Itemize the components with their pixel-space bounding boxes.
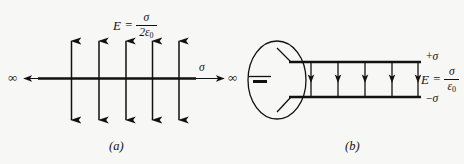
infinity-label-right: ∞ [228,71,237,84]
panel-a-equation-variable: E [113,19,121,32]
panel-a-field-equation: E = σ 2ε0 [113,12,157,38]
panel-a-equation-equals: = [125,19,132,32]
panel-b-equation-numerator: σ [446,66,458,79]
panel-b-field-arrows [308,62,422,97]
panel-b-equation-denominator: ε0 [444,80,459,93]
panel-a-denominator-subscript: 0 [150,31,154,40]
top-plate-charge-label: +σ [426,51,438,63]
panel-a-caption: (a) [109,140,124,153]
lead-bottom-wire [277,97,291,112]
panel-a-denominator-symbol: ε [145,26,150,38]
infinity-label-left: ∞ [8,71,17,84]
lead-top-wire [277,48,291,62]
physics-figure: ∞ ∞ σ E = σ 2ε0 (a) +σ −σ E = σ ε0 (b) [0,0,464,164]
sheet-charge-density-label: σ [199,62,205,74]
panel-a-equation-denominator: 2ε0 [136,26,156,39]
bottom-plate-sigma: σ [433,92,439,104]
panel-a-group [24,41,224,120]
panel-b-equation-fraction: σ ε0 [444,66,459,92]
panel-b-denominator-subscript: 0 [452,85,456,94]
top-plate-sigma: σ [433,50,439,62]
panel-b-group [248,41,421,119]
battery-symbol [249,77,271,82]
panel-b-equation-variable: E [421,73,429,86]
panel-b-equation-equals: = [433,73,440,86]
bottom-plate-charge-label: −σ [426,93,438,105]
panel-b-caption: (b) [345,140,360,153]
panel-a-equation-numerator: σ [141,12,153,25]
panel-a-equation-fraction: σ 2ε0 [136,12,156,38]
panel-b-field-equation: E = σ ε0 [421,66,459,92]
panel-a-field-arrows [72,41,180,120]
